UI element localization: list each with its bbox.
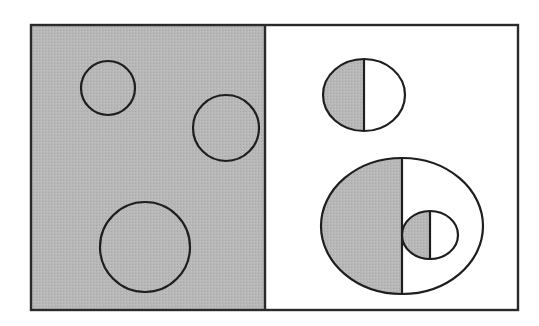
right-panel: [265, 25, 518, 310]
top-split-circle: [323, 59, 405, 131]
large-split-ellipse: [321, 158, 483, 294]
diagram: [0, 0, 539, 326]
inner-split-circle: [402, 211, 458, 259]
left-shaded-region: [31, 25, 265, 310]
left-panel: [31, 25, 265, 310]
